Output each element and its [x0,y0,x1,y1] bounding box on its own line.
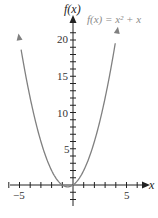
y-tick-label-20: 20 [57,33,69,45]
x-axis-label: x [148,178,155,192]
function-label: f(x) = x² + x [87,13,141,26]
y-axis-label: f(x) [64,2,81,16]
y-tick-label-15: 15 [57,70,69,82]
y-tick-label-5: 5 [64,143,70,155]
chart: −5 5 5 10 15 20 f(x) x f(x) = x² + x [0,0,158,218]
function-curve [21,43,115,187]
x-tick-label-5: 5 [124,189,130,201]
curve-right-arrow-icon [114,27,120,34]
curve-left-arrow-icon [17,33,23,40]
x-axis [9,182,150,189]
y-tick-label-10: 10 [57,107,69,119]
x-tick-label-neg5: −5 [13,189,25,201]
y-axis-arrow-icon [70,15,77,23]
y-axis [70,15,77,206]
